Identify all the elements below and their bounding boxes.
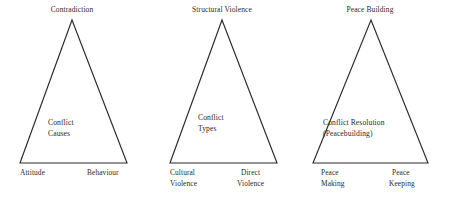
inner-label-conflict-types-line2: Types [198,123,217,134]
inner-label-conflict-resolution-line2: (Peacebuilding) [323,128,373,139]
triangle-outlines-layer [0,0,449,198]
apex-label-structural-violence: Structural Violence [192,5,252,15]
apex-label-contradiction: Contradiction [51,5,94,15]
corner-label-cultural-violence-line1: Cultural [170,168,195,179]
triangle-outline-conflict-types [170,20,277,163]
corner-label-peace-keeping-line2: Keeping [389,179,415,190]
corner-label-attitude: Attitude [20,168,45,179]
inner-label-conflict-resolution-line1: Conflict Resolution [323,117,385,128]
triangle-outline-conflict-causes [20,20,127,163]
inner-label-conflict-causes-line1: Conflict [48,117,74,128]
apex-label-peace-building: Peace Building [346,5,393,15]
conflict-triangles-diagram: Contradiction Conflict Causes Attitude B… [0,0,449,198]
corner-label-peace-keeping-line1: Peace [392,168,410,179]
triangle-outline-conflict-resolution [313,20,428,163]
corner-label-direct-violence-line1: Direct [241,168,260,179]
corner-label-peace-making-line2: Making [321,179,345,190]
inner-label-conflict-causes-line2: Causes [48,128,70,139]
corner-label-behaviour: Behaviour [87,168,119,179]
corner-label-direct-violence-line2: Violence [237,179,264,190]
inner-label-conflict-types-line1: Conflict [198,112,224,123]
corner-label-cultural-violence-line2: Violence [170,179,197,190]
corner-label-peace-making-line1: Peace [321,168,339,179]
